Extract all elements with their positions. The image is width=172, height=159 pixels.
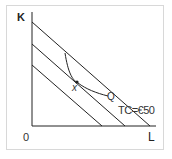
total-cost-label: TC=€50 bbox=[118, 104, 154, 116]
isocost-line-mid bbox=[32, 44, 125, 126]
x-axis-label: L bbox=[148, 131, 155, 143]
y-axis-label: K bbox=[17, 11, 25, 23]
tangency-point-label: x bbox=[72, 82, 77, 94]
origin-label: 0 bbox=[23, 131, 29, 143]
isoquant-label: Q bbox=[107, 91, 115, 103]
